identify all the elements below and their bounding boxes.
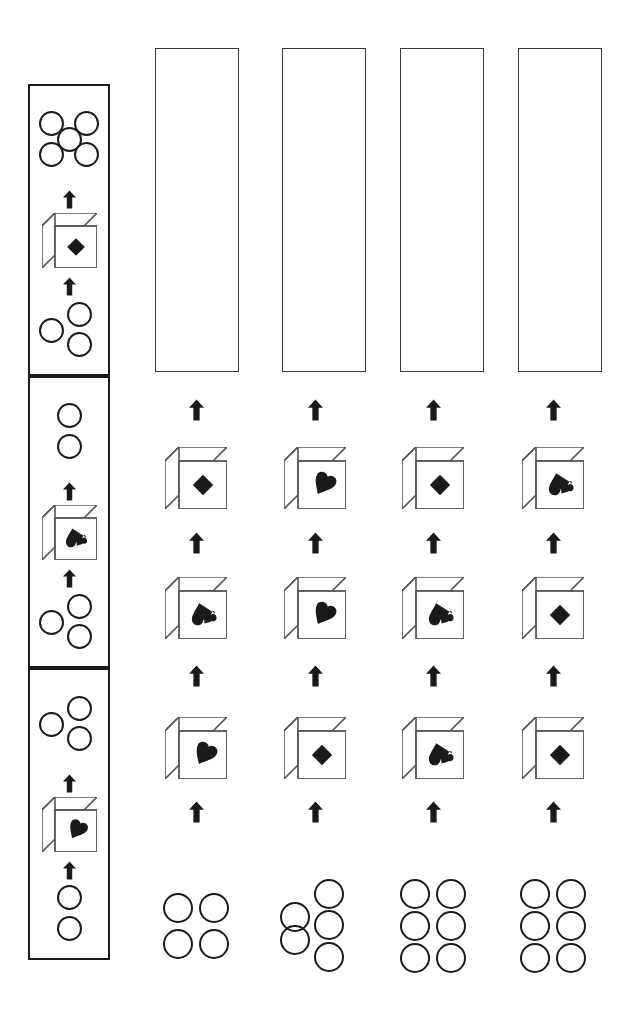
arrow-up-icon bbox=[546, 399, 561, 421]
dot bbox=[57, 885, 82, 910]
answer-column-2-cube-1 bbox=[284, 447, 346, 509]
dot bbox=[39, 610, 64, 635]
puzzle-canvas bbox=[0, 0, 637, 1030]
dot bbox=[199, 929, 229, 959]
answer-box-2[interactable] bbox=[282, 48, 366, 372]
answer-box-1[interactable] bbox=[155, 48, 239, 372]
arrow-up-icon bbox=[546, 801, 561, 823]
spade-symbol-icon bbox=[186, 598, 220, 632]
dot bbox=[436, 943, 466, 973]
dot bbox=[67, 726, 92, 751]
dot bbox=[400, 879, 430, 909]
dot bbox=[57, 916, 82, 941]
dot bbox=[400, 943, 430, 973]
arrow-up-icon bbox=[63, 774, 76, 793]
dot bbox=[163, 929, 193, 959]
dot bbox=[163, 893, 193, 923]
arrow-up-icon bbox=[189, 399, 204, 421]
dot bbox=[436, 911, 466, 941]
dot bbox=[67, 594, 92, 619]
arrow-up-icon bbox=[308, 399, 323, 421]
answer-column-1-cube-2 bbox=[165, 577, 227, 639]
answer-column-2-cube-3 bbox=[284, 717, 346, 779]
dot bbox=[520, 911, 550, 941]
diamond-symbol-icon bbox=[188, 470, 218, 500]
arrow-up-icon bbox=[63, 277, 76, 296]
dot bbox=[39, 712, 64, 737]
dot bbox=[67, 624, 92, 649]
answer-column-1-cube-1 bbox=[165, 447, 227, 509]
dot bbox=[280, 925, 310, 955]
dot bbox=[314, 910, 344, 940]
arrow-up-icon bbox=[426, 801, 441, 823]
dot bbox=[314, 942, 344, 972]
example-panel-3-cube bbox=[42, 797, 97, 852]
dot bbox=[199, 893, 229, 923]
example-panel-2-cube bbox=[42, 505, 97, 560]
arrow-up-icon bbox=[426, 665, 441, 687]
arrow-up-icon bbox=[63, 861, 76, 880]
arrow-up-icon bbox=[63, 190, 76, 209]
spade-symbol-icon bbox=[423, 598, 457, 632]
dot bbox=[67, 696, 92, 721]
dot bbox=[556, 879, 586, 909]
spade-symbol-icon bbox=[543, 468, 577, 502]
arrow-up-icon bbox=[189, 532, 204, 554]
answer-column-4-cube-2 bbox=[522, 577, 584, 639]
answer-column-3-cube-1 bbox=[402, 447, 464, 509]
arrow-up-icon bbox=[546, 532, 561, 554]
answer-box-4[interactable] bbox=[518, 48, 602, 372]
heart-symbol-icon bbox=[187, 738, 221, 772]
answer-box-3[interactable] bbox=[400, 48, 484, 372]
dot bbox=[57, 434, 82, 459]
dot bbox=[39, 318, 64, 343]
answer-column-1-cube-3 bbox=[165, 717, 227, 779]
arrow-up-icon bbox=[426, 399, 441, 421]
example-panel-1-cube bbox=[42, 213, 97, 268]
spade-symbol-icon bbox=[423, 738, 457, 772]
arrow-up-icon bbox=[63, 569, 76, 588]
dot bbox=[436, 879, 466, 909]
arrow-up-icon bbox=[189, 665, 204, 687]
dot bbox=[57, 403, 82, 428]
diamond-symbol-icon bbox=[425, 470, 455, 500]
dot bbox=[400, 911, 430, 941]
heart-symbol-icon bbox=[306, 598, 340, 632]
dot bbox=[520, 943, 550, 973]
dot bbox=[67, 332, 92, 357]
spade-symbol-icon bbox=[61, 524, 90, 553]
answer-column-3-cube-3 bbox=[402, 717, 464, 779]
arrow-up-icon bbox=[308, 801, 323, 823]
arrow-up-icon bbox=[63, 482, 76, 501]
dot bbox=[556, 943, 586, 973]
arrow-up-icon bbox=[426, 532, 441, 554]
dot bbox=[39, 142, 64, 167]
heart-symbol-icon bbox=[62, 816, 91, 845]
answer-column-2-cube-2 bbox=[284, 577, 346, 639]
dot bbox=[314, 879, 344, 909]
arrow-up-icon bbox=[308, 532, 323, 554]
dot bbox=[556, 911, 586, 941]
diamond-symbol-icon bbox=[307, 740, 337, 770]
answer-column-4-cube-3 bbox=[522, 717, 584, 779]
arrow-up-icon bbox=[546, 665, 561, 687]
diamond-symbol-icon bbox=[545, 740, 575, 770]
arrow-up-icon bbox=[189, 801, 204, 823]
heart-symbol-icon bbox=[306, 468, 340, 502]
dot bbox=[520, 879, 550, 909]
dot bbox=[67, 302, 92, 327]
arrow-up-icon bbox=[308, 665, 323, 687]
answer-column-4-cube-1 bbox=[522, 447, 584, 509]
answer-column-3-cube-2 bbox=[402, 577, 464, 639]
diamond-symbol-icon bbox=[545, 600, 575, 630]
diamond-symbol-icon bbox=[63, 234, 89, 260]
